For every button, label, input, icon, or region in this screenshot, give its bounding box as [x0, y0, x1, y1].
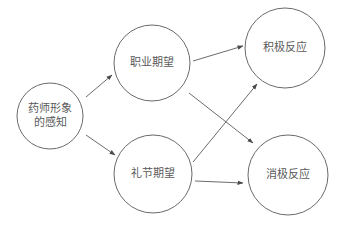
node-label: 礼节期望 — [131, 166, 175, 180]
node-label: 职业期望 — [130, 56, 174, 69]
node-etiquette: 礼节期望 — [114, 135, 192, 213]
node-label: 的感知 — [34, 115, 67, 129]
node-label: 药师形象 — [28, 102, 72, 115]
node-perception: 药师形象的感知 — [17, 83, 83, 149]
node-negative: 消极反应 — [248, 135, 328, 215]
arrow-etiquette-to-negative — [195, 181, 243, 183]
arrow-etiquette-to-positive — [193, 84, 257, 162]
arrow-perception-to-etiquette — [86, 135, 115, 155]
node-label: 积极反应 — [263, 40, 307, 54]
arrow-perception-to-professional — [86, 75, 112, 97]
node-positive: 积极反应 — [245, 8, 325, 88]
path-diagram: 药师形象的感知职业期望礼节期望积极反应消极反应 — [0, 0, 338, 226]
node-professional: 职业期望 — [114, 25, 190, 101]
arrow-professional-to-positive — [193, 46, 243, 61]
node-label: 消极反应 — [266, 167, 310, 181]
